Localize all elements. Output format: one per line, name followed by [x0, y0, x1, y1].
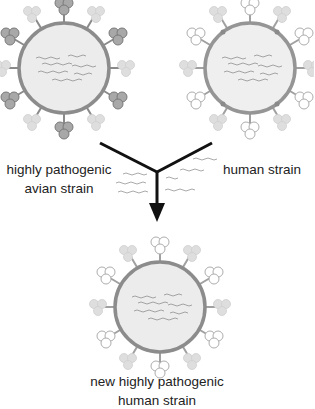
human-label: human strain: [210, 160, 314, 179]
avian-strain-label: highly pathogenic avian strain: [0, 160, 118, 198]
new-label-line2: human strain: [57, 391, 257, 409]
rna-segments: [116, 158, 217, 193]
avian-label-line2: avian strain: [0, 179, 118, 198]
new-virus: [90, 237, 231, 378]
new-strain-label: new highly pathogenic human strain: [57, 372, 257, 409]
avian-label-line1: highly pathogenic: [0, 160, 118, 179]
reassortment-diagram: [0, 0, 314, 399]
human-virus: [180, 0, 315, 139]
human-strain-label: human strain: [210, 160, 314, 179]
new-label-line1: new highly pathogenic: [57, 372, 257, 391]
avian-virus: [0, 0, 135, 139]
